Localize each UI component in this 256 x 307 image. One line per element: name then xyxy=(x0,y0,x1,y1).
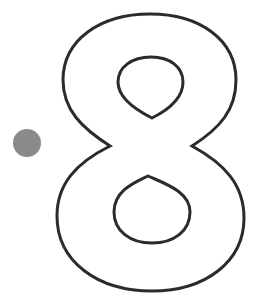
eight-lower-counter xyxy=(114,176,190,243)
eight-upper-counter xyxy=(118,57,183,118)
bullet-dot-icon xyxy=(13,129,41,157)
numeral-eight-figure: 8 xyxy=(0,0,256,307)
